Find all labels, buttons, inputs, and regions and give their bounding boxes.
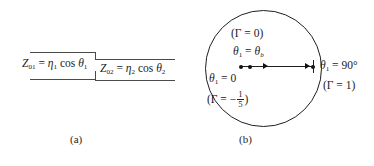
eta2-subscript: 2: [132, 68, 136, 76]
endpoint-tick: [313, 60, 314, 73]
figure-container: Z01 = η1 cos θ1 Z02 = η2 cos θ2 (a) (Γ =…: [0, 0, 374, 166]
fraction-one-fifth: 15: [237, 90, 243, 109]
line-right-section-top: [95, 59, 175, 60]
z02-subscript: 02: [106, 68, 113, 76]
theta-zero-equals: = 0: [221, 72, 236, 84]
line-left-section-top: [30, 52, 96, 53]
z01-equals: =: [38, 57, 45, 69]
fraction-denominator: 5: [237, 99, 243, 109]
theta2-subscript-right: 2: [162, 68, 166, 76]
marker-dot-theta-brewster: [248, 65, 252, 69]
label-theta-zero: θ1 = 0: [209, 73, 236, 86]
z02-equals: =: [116, 62, 123, 74]
line-right-section-bottom: [95, 80, 175, 81]
gamma-neg-open: (Γ = −: [207, 93, 236, 105]
cos-operator-left: cos: [60, 57, 75, 69]
theta-zero-subscript: 1: [215, 78, 219, 86]
label-gamma-negative-fifth: (Γ = −15): [207, 90, 248, 109]
label-impedance-z01: Z01 = η1 cos θ1: [22, 58, 87, 71]
caption-panel-b: (b): [239, 133, 252, 145]
label-theta-brewster: θ1 = θb: [233, 46, 264, 59]
marker-dot-theta-zero: [239, 65, 243, 69]
gamma-neg-close: ): [245, 93, 249, 105]
theta-b-value-subscript: b: [260, 51, 264, 59]
label-theta-ninety: θ1 = 90°: [320, 60, 358, 73]
label-gamma-one: (Γ = 1): [323, 80, 355, 92]
label-impedance-z02: Z02 = η2 cos θ2: [100, 63, 165, 76]
theta-90-equals: = 90°: [332, 59, 357, 71]
z01-subscript: 01: [28, 63, 35, 71]
panel-b-reflection-circle: (Γ = 0) θ1 = θb θ1 = 0 (Γ = −15) θ1 = 90…: [187, 0, 374, 166]
line-step-riser-bottom: [95, 71, 96, 80]
fraction-numerator: 1: [237, 90, 243, 99]
line-left-section-bottom: [30, 79, 96, 80]
theta1-subscript-left: 1: [84, 63, 88, 71]
theta-b-subscript: 1: [239, 51, 243, 59]
arrow-head-end: [305, 63, 310, 69]
cos-operator-right: cos: [138, 62, 153, 74]
panel-a-stepped-line: Z01 = η1 cos θ1 Z02 = η2 cos θ2 (a): [0, 0, 187, 166]
theta-90-subscript: 1: [326, 65, 330, 73]
eta1-subscript: 1: [54, 63, 58, 71]
arrow-head-mid: [263, 63, 268, 69]
caption-panel-a: (a): [70, 133, 82, 145]
theta-b-equals: =: [245, 45, 252, 57]
label-gamma-zero: (Γ = 0): [231, 28, 263, 40]
